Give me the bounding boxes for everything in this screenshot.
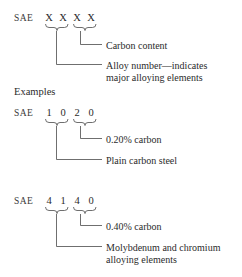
block-3-digit-3: 4 <box>72 196 82 207</box>
block-2-digit-4: 0 <box>86 108 96 119</box>
block-2-digit-1: 1 <box>44 108 54 119</box>
block-1-digit-2: X <box>58 13 68 24</box>
block-3-callout-alloy-elements-line-2: alloying elements <box>106 254 177 266</box>
block-3-digit-2: 1 <box>58 196 68 207</box>
block-1-digit-4: X <box>86 13 96 24</box>
block-1-digit-3: X <box>72 13 82 24</box>
block-2-brace-left <box>46 119 69 126</box>
block-2-sae-prefix: SAE <box>14 109 33 119</box>
examples-label: Examples <box>14 87 55 98</box>
block-2-brace-right <box>74 119 97 126</box>
block-3-digit-1: 4 <box>44 196 54 207</box>
block-3-callout-alloy-elements-line-1: Molybdenum and chromium <box>106 242 220 254</box>
block-3-brace-right <box>74 207 97 214</box>
block-3-brace-left <box>46 207 69 214</box>
block-2-digit-2: 0 <box>58 108 68 119</box>
block-3-sae-prefix: SAE <box>14 197 33 207</box>
block-2-callout-carbon-percent: 0.20% carbon <box>106 134 162 146</box>
block-1-sae-prefix: SAE <box>14 14 33 24</box>
block-1-callout-carbon-content: Carbon content <box>106 40 167 52</box>
block-1-brace-left <box>46 24 69 31</box>
sae-designation-figure: SAE X X X X Carbon content Alloy number—… <box>0 0 242 277</box>
block-2-callout-steel-type: Plain carbon steel <box>106 155 177 167</box>
block-3-digit-4: 0 <box>86 196 96 207</box>
block-1-digit-1: X <box>44 13 54 24</box>
block-1-callout-alloy-number-line-2: major alloying elements <box>106 72 203 84</box>
block-3-callout-carbon-percent: 0.40% carbon <box>106 221 162 233</box>
block-1-brace-right <box>74 24 97 31</box>
block-2-digit-3: 2 <box>72 108 82 119</box>
block-1-callout-alloy-number-line-1: Alloy number—indicates <box>106 60 207 72</box>
